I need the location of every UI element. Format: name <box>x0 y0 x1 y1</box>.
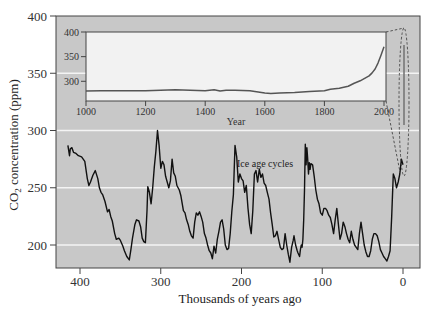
inset-x-tick-label: 1600 <box>255 106 275 117</box>
inset-y-tick-label: 350 <box>64 51 79 62</box>
inset-x-tick-label: 2000 <box>374 106 394 117</box>
y-tick-label: 350 <box>28 66 48 81</box>
inset-x-tick-label: 1200 <box>136 106 156 117</box>
inset-x-tick-label: 1000 <box>76 106 96 117</box>
y-tick-label: 250 <box>28 180 48 195</box>
x-tick-label: 400 <box>70 274 90 289</box>
inset-x-axis-title: Year <box>227 116 246 127</box>
annotation-ice-age-cycles: Ice age cycles <box>237 158 293 169</box>
y-tick-label: 400 <box>28 9 48 24</box>
inset-y-tick-label: 300 <box>64 76 79 87</box>
inset-x-tick-label: 1800 <box>314 106 334 117</box>
main-y-axis-title: CO2 concentration (ppm) <box>6 79 23 211</box>
main-x-axis: 4003002001000 <box>70 268 406 289</box>
inset-y-tick-label: 400 <box>64 27 79 38</box>
y-tick-label: 200 <box>28 238 48 253</box>
y-tick-label: 300 <box>28 123 48 138</box>
main-y-axis: 200250300350400 <box>28 9 57 253</box>
x-tick-label: 200 <box>232 274 252 289</box>
x-tick-label: 0 <box>400 274 407 289</box>
inset-x-tick-label: 1400 <box>195 106 215 117</box>
co2-chart: 200250300350400 4003002001000 300350400 … <box>0 0 427 313</box>
main-x-axis-title: Thousands of years ago <box>178 291 301 306</box>
x-tick-label: 300 <box>151 274 171 289</box>
x-tick-label: 100 <box>313 274 333 289</box>
